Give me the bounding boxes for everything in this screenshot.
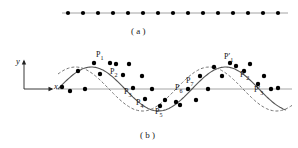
panel-a-sample-dot: [141, 11, 145, 15]
panel-b-graphic: [22, 60, 292, 112]
solid-wave-sample-dot: [269, 87, 273, 91]
point-label-P3p: P′3: [254, 85, 263, 96]
point-label-subscript: 3: [128, 92, 131, 98]
solid-wave-sample-dot: [92, 61, 96, 65]
x-axis-label: x: [54, 81, 58, 91]
point-label-subscript: 7: [190, 81, 193, 87]
panel-a-sample-dot: [261, 11, 265, 15]
solid-wave-sample-dot: [108, 61, 112, 65]
panel-a-sample-dot: [186, 11, 190, 15]
dashed-wave-sample-dot: [114, 62, 118, 66]
y-axis-arrowhead: [22, 60, 26, 65]
panel-a-sample-dot: [201, 11, 205, 15]
dashed-wave-sample-dot: [276, 86, 280, 90]
panel-a-graphic: [62, 11, 288, 15]
point-label-P3: P3: [124, 87, 131, 98]
point-label-subscript: 1: [100, 55, 103, 61]
dashed-wave-sample-dot: [206, 87, 210, 91]
point-label-P1p: P′1: [224, 52, 233, 63]
dashed-wave-sample-dot: [234, 64, 238, 68]
panel-a-sample-dot: [66, 11, 70, 15]
dashed-wave-sample-dot: [83, 87, 87, 91]
panel-a-sample-dot: [216, 11, 220, 15]
solid-wave-sample-dot: [121, 73, 125, 77]
solid-wave-sample-dot: [212, 65, 216, 69]
dashed-wave-sample-dot: [262, 74, 266, 78]
point-label-P7: P7: [186, 76, 193, 87]
solid-wave-sample-dot: [174, 100, 178, 104]
point-label-subscript: 2: [114, 72, 117, 78]
figure-root: ( a ) y x P1P2P3P4P5P6P7P′1P′2P′3 ( b ): [0, 0, 298, 148]
point-label-P2p: P′2: [240, 70, 249, 81]
point-label-subscript: 3: [260, 90, 263, 96]
point-label-P1: P1: [96, 50, 103, 61]
panel-a-sample-dot: [111, 11, 115, 15]
panel-a-sample-dot: [231, 11, 235, 15]
x-axis-arrowhead: [49, 87, 54, 91]
panel-a-caption: ( a ): [131, 26, 146, 36]
point-label-P6: P6: [175, 83, 182, 94]
point-label-subscript: 6: [179, 88, 182, 94]
solid-wave-sample-dot: [186, 87, 190, 91]
dashed-wave-sample-dot: [127, 62, 131, 66]
panel-a-sample-dot: [81, 11, 85, 15]
point-label-subscript: 4: [140, 103, 143, 109]
point-label-subscript: 5: [159, 112, 162, 118]
solid-wave-sample-dot: [60, 85, 64, 89]
panel-a-sample-dot: [156, 11, 160, 15]
point-label-P4: P4: [136, 98, 143, 109]
panel-a-sample-dot: [96, 11, 100, 15]
dashed-wave-sample-dot: [98, 72, 102, 76]
panel-a-sample-dot: [276, 11, 280, 15]
panel-b-caption: ( b ): [140, 130, 155, 140]
panel-a-sample-dot: [246, 11, 250, 15]
dashed-wave-sample-dot: [140, 74, 144, 78]
dashed-wave-sample-dot: [194, 98, 198, 102]
solid-wave-sample-dot: [76, 69, 80, 73]
y-axis-label: y: [16, 56, 20, 66]
point-label-subscript: 1: [230, 57, 233, 63]
dashed-wave-sample-dot: [248, 62, 252, 66]
dashed-wave-sample-dot: [178, 103, 182, 107]
solid-wave-sample-dot: [198, 74, 202, 78]
solid-wave-sample-dot: [143, 97, 147, 101]
dashed-wave-sample-dot: [220, 74, 224, 78]
point-label-subscript: 2: [246, 75, 249, 81]
solid-wave-sample-dot: [131, 86, 135, 90]
point-label-P2: P2: [110, 67, 117, 78]
dashed-wave-sample-dot: [150, 87, 154, 91]
panel-a-sample-dot: [171, 11, 175, 15]
point-label-P5: P5: [155, 107, 162, 118]
panel-a-sample-dot: [126, 11, 130, 15]
dashed-wave-sample-dot: [163, 98, 167, 102]
dashed-wave-sample-dot: [68, 89, 72, 93]
figure-canvas: [0, 0, 298, 148]
